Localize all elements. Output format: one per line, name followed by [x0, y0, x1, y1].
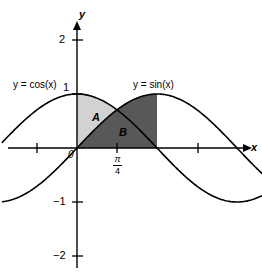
figure-canvas: y x 2 1 −1 −2 0 π 4 y = cos(x) y = sin(x… [0, 0, 262, 278]
y-tick-label-minus-2: −2 [53, 250, 66, 261]
region-label-b: B [119, 127, 127, 138]
x-axis-label: x [251, 142, 257, 153]
sine-curve-label: y = sin(x) [133, 80, 174, 90]
origin-label: 0 [68, 150, 74, 160]
y-tick-label-1: 1 [63, 82, 69, 93]
fraction-denominator: 4 [112, 167, 123, 176]
y-axis-label: y [79, 9, 85, 20]
cosine-curve-label: y = cos(x) [13, 80, 57, 90]
y-tick-label-minus-1: −1 [53, 196, 66, 207]
y-tick-label-2: 2 [59, 34, 65, 45]
fraction-numerator: π [112, 155, 123, 164]
region-label-a: A [92, 112, 100, 123]
x-tick-label-pi-over-4: π 4 [112, 155, 123, 177]
sine-cosine-plot [0, 0, 262, 278]
y-axis-arrowhead [73, 21, 81, 30]
